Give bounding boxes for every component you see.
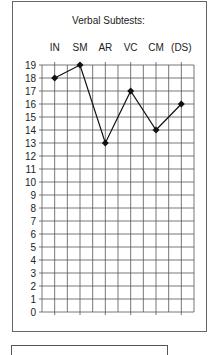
data-point-marker	[51, 75, 58, 82]
y-tick-label: 18	[25, 73, 37, 84]
category-label: (DS)	[171, 42, 192, 53]
category-label: AR	[98, 42, 112, 53]
category-label: IN	[50, 42, 60, 53]
y-tick-label: 16	[25, 99, 37, 110]
y-tick-label: 14	[25, 125, 37, 136]
grid: 012345678910111213141516171819	[25, 60, 194, 318]
category-label: SM	[73, 42, 88, 53]
category-label: CM	[148, 42, 164, 53]
category-labels: INSMARVCCM(DS)	[50, 42, 192, 53]
data-point-marker	[77, 62, 84, 69]
data-point-marker	[127, 88, 134, 95]
y-tick-label: 1	[30, 294, 36, 305]
y-tick-label: 15	[25, 112, 37, 123]
y-tick-label: 19	[25, 60, 37, 71]
data-point-marker	[102, 140, 109, 147]
y-tick-label: 8	[30, 203, 36, 214]
y-tick-label: 9	[30, 190, 36, 201]
category-label: VC	[124, 42, 138, 53]
y-tick-label: 3	[30, 268, 36, 279]
y-tick-label: 7	[30, 216, 36, 227]
y-tick-label: 13	[25, 138, 37, 149]
y-tick-label: 11	[26, 164, 37, 175]
y-tick-label: 17	[25, 86, 37, 97]
secondary-panel	[11, 345, 168, 355]
y-tick-label: 12	[25, 151, 37, 162]
y-tick-label: 2	[30, 281, 36, 292]
y-tick-label: 4	[30, 255, 36, 266]
y-tick-label: 5	[30, 242, 36, 253]
y-tick-label: 0	[30, 307, 36, 318]
y-tick-label: 6	[30, 229, 36, 240]
y-tick-label: 10	[25, 177, 37, 188]
